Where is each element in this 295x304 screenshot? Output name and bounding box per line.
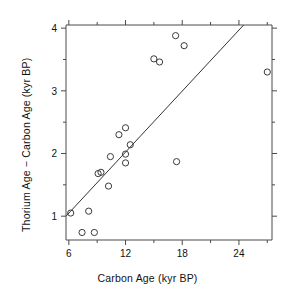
svg-text:1: 1 [51,211,57,222]
fit-line [66,25,244,216]
data-point [79,229,85,235]
y-axis-label: Thorium Age − Carbon Age (kyr BP) [20,58,32,232]
data-point [116,132,122,138]
data-point [91,229,97,235]
data-point [122,125,128,131]
data-point [156,59,162,65]
svg-text:24: 24 [233,248,245,259]
data-points [68,33,271,236]
data-point [122,160,128,166]
data-point [264,69,270,75]
svg-text:12: 12 [120,248,132,259]
svg-text:2: 2 [51,148,57,159]
data-point [173,159,179,165]
data-point [105,183,111,189]
scatter-plot-figure: 61218241234 Carbon Age (kyr BP) Thorium … [0,0,295,304]
plot-canvas: 61218241234 [0,0,295,304]
svg-text:4: 4 [51,23,57,34]
data-point [86,208,92,214]
axis-ticks [61,20,277,245]
svg-text:3: 3 [51,86,57,97]
data-point [181,43,187,49]
x-axis-label: Carbon Age (kyr BP) [0,272,295,284]
svg-text:6: 6 [66,248,72,259]
data-point [151,56,157,62]
axis-tick-labels: 61218241234 [51,23,244,259]
plot-frame [66,25,272,240]
svg-text:18: 18 [177,248,189,259]
data-point [107,154,113,160]
data-point [173,33,179,39]
